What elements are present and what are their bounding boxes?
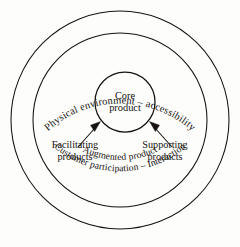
core-product-label-line2: product xyxy=(109,102,141,113)
facilitating-products-label-line2: products xyxy=(57,151,92,162)
concentric-circles-figure: Physical environment – accessibility Aug… xyxy=(0,0,240,247)
service-offering-diagram: Physical environment – accessibility Aug… xyxy=(0,0,240,247)
facilitating-products-label-line1: Facilitating xyxy=(52,139,98,150)
outer-ring-circle xyxy=(11,11,229,229)
core-product-label-line1: Core xyxy=(115,90,136,101)
supporting-products-label-line2: products xyxy=(147,151,182,162)
supporting-products-label-line1: Supporting xyxy=(142,139,187,150)
